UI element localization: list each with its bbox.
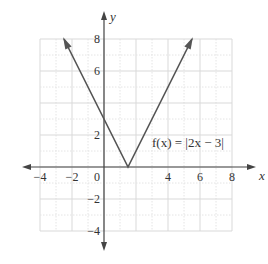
y-axis-label: y [108, 9, 116, 24]
x-tick-label: 8 [229, 170, 235, 184]
x-axis-arrow-left-icon [22, 164, 31, 170]
y-tick-label: −4 [87, 224, 100, 238]
y-axis-arrow-down-icon [101, 242, 107, 251]
x-tick-label: 6 [197, 170, 203, 184]
x-axis-arrow-right-icon [247, 164, 256, 170]
y-tick-label: 8 [94, 32, 100, 46]
y-tick-label: 2 [94, 128, 100, 142]
x-axis-label: x [258, 168, 265, 183]
x-tick-label: 0 [94, 170, 100, 184]
function-label: f(x) = |2x − 3| [152, 135, 224, 150]
x-tick-label: −4 [34, 170, 47, 184]
x-tick-label: 4 [165, 170, 171, 184]
y-axis-arrow-up-icon [101, 11, 107, 20]
x-tick-label: −2 [66, 170, 79, 184]
y-tick-label: 6 [94, 64, 100, 78]
function-graph: −4−20468−4−2268 f(x) = |2x − 3| x y [0, 0, 268, 264]
y-tick-label: −2 [87, 192, 100, 206]
